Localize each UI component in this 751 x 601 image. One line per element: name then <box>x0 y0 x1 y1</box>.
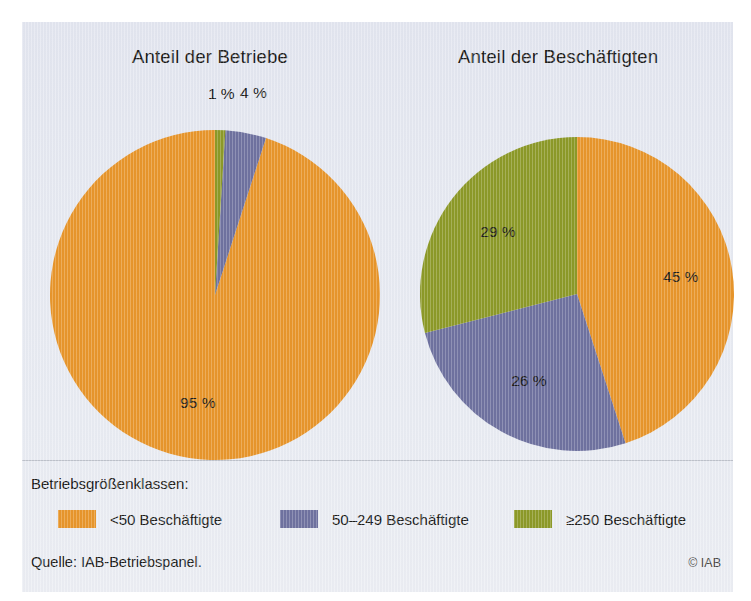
copyright-note: © IAB <box>688 556 721 570</box>
legend: Betriebsgrößenklassen: <50 Beschäftigte … <box>22 460 733 540</box>
footer: Quelle: IAB-Betriebspanel. © IAB <box>22 542 733 592</box>
legend-item-small: <50 Beschäftigte <box>58 505 222 533</box>
pie-slice-label: 26 % <box>511 372 547 389</box>
legend-item-large: ≥250 Beschäftigte <box>514 505 686 533</box>
chart-panel: Anteil der Betriebe Anteil der Beschäfti… <box>22 22 733 592</box>
pie-slice-label: 29 % <box>480 223 516 240</box>
pie-chart-beschaeftigte: 45 %26 %29 % <box>28 22 739 460</box>
legend-item-medium: 50–249 Beschäftigte <box>280 505 469 533</box>
legend-label-large: ≥250 Beschäftigte <box>566 511 686 528</box>
legend-swatch-small <box>58 510 96 528</box>
source-note: Quelle: IAB-Betriebspanel. <box>31 554 202 570</box>
legend-row: <50 Beschäftigte 50–249 Beschäftigte ≥25… <box>22 505 733 533</box>
legend-title: Betriebsgrößenklassen: <box>31 475 189 492</box>
legend-swatch-medium <box>280 510 318 528</box>
legend-label-medium: 50–249 Beschäftigte <box>332 511 469 528</box>
charts-container: Anteil der Betriebe Anteil der Beschäfti… <box>22 22 733 460</box>
pie-slice-label: 45 % <box>663 268 699 285</box>
figure-root: Anteil der Betriebe Anteil der Beschäfti… <box>0 0 751 601</box>
legend-swatch-large <box>514 510 552 528</box>
legend-label-small: <50 Beschäftigte <box>110 511 222 528</box>
